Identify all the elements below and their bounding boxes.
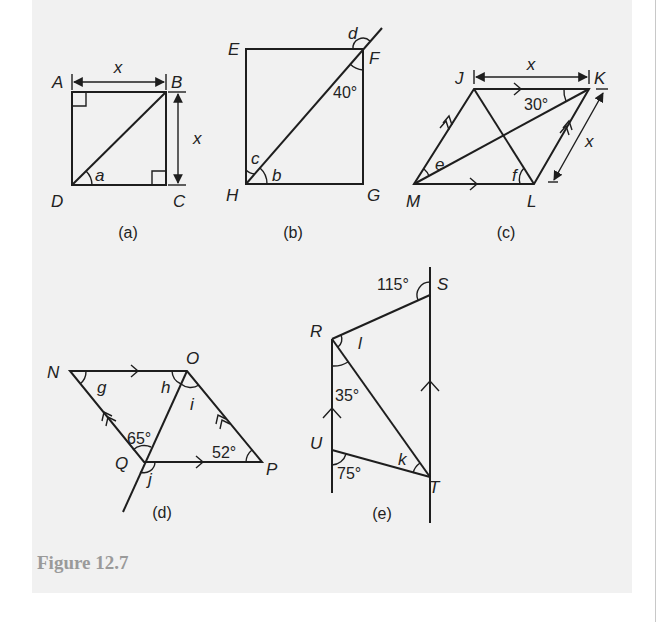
vertex-label-e: E xyxy=(228,40,240,59)
vertex-label-j: J xyxy=(454,69,464,88)
figure-sublabel-d: (d) xyxy=(152,504,172,521)
angle-label-75: 75° xyxy=(337,465,361,482)
vertex-label-g: G xyxy=(367,186,380,205)
figure-sublabel-b: (b) xyxy=(283,224,303,241)
vertex-label-b: B xyxy=(171,73,182,92)
figure-sublabel-c: (c) xyxy=(497,224,516,241)
angle-label-k: k xyxy=(398,450,408,469)
vertex-label-k: K xyxy=(594,69,606,88)
vertex-label-o: O xyxy=(186,349,199,368)
angle-label-40: 40° xyxy=(333,84,357,101)
dimension-label-right: x xyxy=(584,132,594,151)
vertex-label-l: L xyxy=(527,192,536,211)
vertex-label-t: T xyxy=(429,478,441,497)
angle-label-h: h xyxy=(161,378,170,397)
angle-label-52: 52° xyxy=(212,444,236,461)
figure-b-rectangle xyxy=(246,28,382,184)
angle-label-e: e xyxy=(435,155,444,174)
figure-caption: Figure 12.7 xyxy=(37,552,128,574)
angle-label-115: 115° xyxy=(377,276,409,293)
angle-label-30: 30° xyxy=(524,96,548,113)
vertex-label-a: A xyxy=(51,73,63,92)
angle-label-g: g xyxy=(97,378,107,397)
angle-label-65: 65° xyxy=(127,430,151,447)
vertex-label-s: S xyxy=(437,275,449,294)
vertex-label-u: U xyxy=(310,434,323,453)
angle-label-c: c xyxy=(251,149,260,168)
geometry-figures: x x A B C D a (a) E F G H 40° c b d (b) xyxy=(0,0,660,622)
angle-label-35: 35° xyxy=(335,387,359,404)
angle-label-a: a xyxy=(95,166,104,185)
vertex-label-q: Q xyxy=(115,454,128,473)
angle-label-f: f xyxy=(512,166,519,185)
angle-label-b: b xyxy=(272,166,281,185)
angle-label-j: j xyxy=(146,470,153,489)
angle-label-d: d xyxy=(348,24,358,43)
figure-sublabel-a: (a) xyxy=(118,224,138,241)
dimension-label-top: x xyxy=(113,58,123,77)
vertex-label-f: F xyxy=(369,49,381,68)
vertex-label-r: R xyxy=(310,322,322,341)
vertex-label-h: H xyxy=(226,186,239,205)
vertex-label-n: N xyxy=(47,363,60,382)
vertex-label-d: D xyxy=(51,192,63,211)
angle-label-l: l xyxy=(358,334,363,353)
dimension-label-right: x xyxy=(192,129,202,148)
figure-a-square xyxy=(72,74,186,185)
vertex-label-c: C xyxy=(173,192,186,211)
angle-label-i: i xyxy=(190,395,195,414)
figure-sublabel-e: (e) xyxy=(372,505,392,522)
vertex-label-m: M xyxy=(406,192,421,211)
dimension-label-top: x xyxy=(526,55,536,74)
vertex-label-p: P xyxy=(266,460,278,479)
